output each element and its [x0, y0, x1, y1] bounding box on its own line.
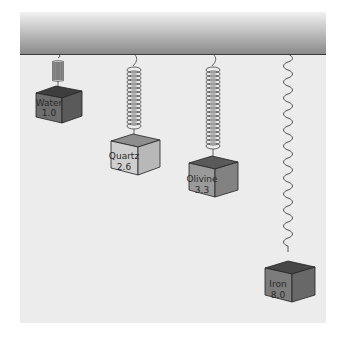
spring-water: [52, 54, 64, 88]
label-olivine-name: Olivine: [186, 174, 218, 184]
label-iron-name: Iron: [269, 279, 286, 289]
spring-iron: [284, 54, 293, 252]
springs-scene: Water 1.0 Quartz 2.6: [0, 0, 344, 342]
label-olivine-value: 3.3: [195, 185, 209, 195]
label-water-value: 1.0: [42, 108, 57, 118]
label-water-name: Water: [36, 98, 63, 108]
spring-olivine: [206, 54, 220, 158]
label-quartz-name: Quartz: [109, 151, 140, 161]
label-quartz-value: 2.6: [117, 162, 132, 172]
label-iron-value: 8.0: [271, 290, 286, 300]
spring-quartz: [127, 54, 141, 136]
